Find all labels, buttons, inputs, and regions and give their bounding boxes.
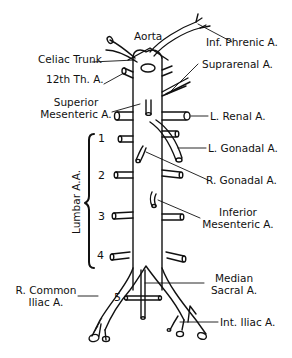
label-inferior-mesenteric-line1: Inferior bbox=[200, 206, 276, 218]
label-l-gonadal: L. Gonadal A. bbox=[208, 142, 278, 154]
right-upper-branch bbox=[162, 66, 172, 76]
label-median-sacral: Median Sacral A. bbox=[204, 272, 264, 296]
label-aorta: Aorta bbox=[134, 30, 162, 42]
renal-arteries bbox=[115, 112, 209, 120]
median-sacral-artery bbox=[125, 270, 205, 319]
lumbar-number-2: 2 bbox=[98, 170, 105, 182]
lumbar-number-3: 3 bbox=[98, 211, 105, 223]
aortic-bifurcation bbox=[88, 266, 207, 343]
label-suprarenal: Suprarenal A. bbox=[202, 58, 273, 70]
label-superior-mesenteric-line2: Mesenteric A. bbox=[38, 108, 114, 120]
superior-mesenteric-artery bbox=[112, 100, 151, 115]
lumbar-arteries-left bbox=[110, 136, 133, 260]
label-r-common-iliac-line1: R. Common bbox=[14, 284, 78, 296]
label-lumbar: Lumbar A.A. bbox=[70, 170, 82, 234]
lumbar-brace bbox=[85, 134, 94, 268]
lumbar-number-4: 4 bbox=[97, 250, 104, 262]
label-l-renal: L. Renal A. bbox=[210, 110, 266, 122]
lumbar-arteries-right bbox=[162, 131, 186, 262]
label-inferior-mesenteric: Inferior Mesenteric A. bbox=[200, 206, 276, 230]
label-median-sacral-line1: Median bbox=[204, 272, 264, 284]
label-r-gonadal: R. Gonadal A. bbox=[206, 174, 277, 186]
label-12th-thoracic: 12th Th. A. bbox=[46, 73, 104, 85]
lumbar-number-5: 5 bbox=[114, 292, 121, 304]
left-gonadal-artery bbox=[150, 120, 206, 162]
label-celiac-trunk: Celiac Trunk bbox=[38, 53, 102, 65]
label-superior-mesenteric-line1: Superior bbox=[38, 96, 114, 108]
aorta-trunk bbox=[128, 48, 168, 290]
label-median-sacral-line2: Sacral A. bbox=[204, 284, 264, 296]
lumbar-number-1: 1 bbox=[98, 133, 105, 145]
label-inf-phrenic: Inf. Phrenic A. bbox=[206, 36, 278, 48]
suprarenal-artery bbox=[162, 64, 198, 96]
label-inferior-mesenteric-line2: Mesenteric A. bbox=[200, 218, 276, 230]
inf-phrenic-artery bbox=[150, 14, 232, 56]
label-superior-mesenteric: Superior Mesenteric A. bbox=[38, 96, 114, 120]
label-r-common-iliac-line2: Iliac A. bbox=[14, 296, 78, 308]
label-int-iliac: Int. Iliac A. bbox=[220, 316, 275, 328]
label-r-common-iliac: R. Common Iliac A. bbox=[14, 284, 78, 308]
12th-thoracic-artery bbox=[104, 68, 133, 84]
